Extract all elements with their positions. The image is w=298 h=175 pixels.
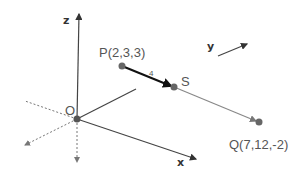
point-p	[119, 63, 126, 70]
point-p-label: P(2,3,3)	[99, 45, 145, 60]
point-q	[256, 119, 263, 126]
origin-label: O	[65, 103, 75, 118]
vector-s-to-q	[174, 87, 256, 121]
x-axis-label: x	[177, 156, 184, 169]
point-s-label: S	[181, 74, 190, 89]
z-axis	[77, 14, 79, 119]
vector-diagram: z x y O P(2,3,3) S Q(7,12,-2) 4	[0, 0, 298, 175]
y-axis-lower	[77, 89, 136, 119]
negative-y-axis	[25, 119, 77, 145]
x-axis	[77, 119, 196, 159]
y-axis-label: y	[207, 40, 214, 53]
z-axis-label: z	[63, 14, 69, 27]
vector-p-to-s	[122, 66, 171, 86]
point-q-label: Q(7,12,-2)	[229, 137, 288, 152]
y-axis-upper	[218, 44, 247, 56]
point-s	[171, 84, 178, 91]
segment-length-label: 4	[149, 69, 154, 78]
